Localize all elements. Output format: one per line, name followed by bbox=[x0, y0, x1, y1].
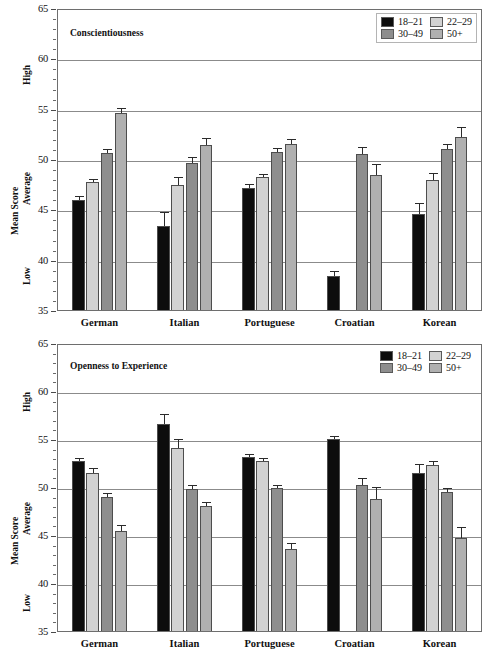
error-bar-whisker bbox=[419, 203, 420, 214]
y-tick-label: 40 bbox=[26, 579, 48, 589]
legend-swatch-22-29-bottom bbox=[429, 351, 442, 361]
y-tick-minor bbox=[53, 251, 56, 252]
bar bbox=[242, 457, 255, 631]
error-bar-whisker bbox=[433, 173, 434, 180]
bar bbox=[115, 531, 128, 631]
bar bbox=[271, 488, 284, 631]
legend-label-50plus-bottom: 50+ bbox=[446, 363, 462, 373]
y-tick-minor bbox=[53, 478, 56, 479]
legend-swatch-30-49-bottom bbox=[380, 363, 393, 373]
legend-top: 18–21 22–29 30–49 50+ bbox=[376, 13, 477, 43]
error-bar-whisker bbox=[164, 212, 165, 226]
panel-openness-to-experience: Mean Score High Average Low 18–21 22–29 … bbox=[0, 330, 490, 654]
error-bar-cap bbox=[245, 454, 254, 455]
y-tick-minor bbox=[53, 241, 56, 242]
y-tick-minor bbox=[53, 79, 56, 80]
x-axis-category-label: Croatian bbox=[312, 317, 397, 328]
legend-item-22-29-top: 22–29 bbox=[430, 17, 472, 27]
bar bbox=[356, 485, 369, 631]
bar bbox=[200, 145, 213, 310]
legend-item-30-49-bottom: 30–49 bbox=[380, 363, 422, 373]
y-tick-major bbox=[51, 344, 56, 345]
error-bar-cap bbox=[358, 478, 367, 479]
bar bbox=[356, 154, 369, 310]
y-tick-minor bbox=[53, 190, 56, 191]
panel-title-bottom: Openness to Experience bbox=[70, 361, 167, 371]
error-bar-whisker bbox=[362, 478, 363, 485]
legend-bottom: 18–21 22–29 30–49 50+ bbox=[376, 348, 475, 376]
y-tick-minor bbox=[53, 517, 56, 518]
y-tick-minor bbox=[53, 459, 56, 460]
y-tick-minor bbox=[53, 180, 56, 181]
x-axis-category-label: Korean bbox=[397, 317, 482, 328]
y-tick-label: 60 bbox=[26, 387, 48, 397]
y-tick-major bbox=[51, 210, 56, 211]
y-tick-minor bbox=[53, 402, 56, 403]
error-bar-whisker bbox=[461, 527, 462, 538]
legend-label-30-49-bottom: 30–49 bbox=[397, 363, 422, 373]
y-tick-minor bbox=[53, 450, 56, 451]
error-bar-cap bbox=[202, 502, 211, 503]
y-tick-label: 40 bbox=[26, 256, 48, 266]
y-tick-label: 65 bbox=[26, 4, 48, 14]
bar bbox=[441, 492, 454, 631]
legend-swatch-22-29-top bbox=[430, 17, 443, 27]
error-bar-cap bbox=[188, 485, 197, 486]
y-tick-minor bbox=[53, 546, 56, 547]
bar bbox=[242, 188, 255, 310]
y-tick-minor bbox=[53, 574, 56, 575]
y-tick-minor bbox=[53, 200, 56, 201]
error-bar-cap bbox=[273, 485, 282, 486]
error-bar-cap bbox=[287, 543, 296, 544]
error-bar-cap bbox=[429, 461, 438, 462]
plot-area-bottom: 18–21 22–29 30–49 50+ Openness to Experi… bbox=[57, 344, 482, 632]
y-tick-minor bbox=[53, 411, 56, 412]
y-tick-label: 60 bbox=[26, 54, 48, 64]
y-tick-minor bbox=[53, 603, 56, 604]
figure-two-panel-bar-charts: Mean Score High Average Low 18–21 22–29 … bbox=[0, 0, 490, 654]
y-axis-anchor-average-top: Average bbox=[22, 172, 32, 205]
error-bar-cap bbox=[174, 439, 183, 440]
y-tick-major bbox=[51, 311, 56, 312]
bar bbox=[426, 180, 439, 310]
error-bar-cap bbox=[259, 458, 268, 459]
y-tick-minor bbox=[53, 421, 56, 422]
error-bar-whisker bbox=[461, 127, 462, 137]
x-axis-category-label: Croatian bbox=[312, 638, 397, 649]
bar bbox=[327, 276, 340, 310]
bar bbox=[115, 113, 128, 310]
error-bar-cap bbox=[457, 127, 466, 128]
y-tick-minor bbox=[53, 170, 56, 171]
y-tick-minor bbox=[53, 565, 56, 566]
bar bbox=[86, 473, 99, 631]
error-bar-cap bbox=[330, 436, 339, 437]
y-tick-major bbox=[51, 440, 56, 441]
y-tick-minor bbox=[53, 150, 56, 151]
legend-swatch-30-49-top bbox=[381, 29, 394, 39]
bar bbox=[171, 448, 184, 631]
bar bbox=[327, 439, 340, 631]
y-tick-minor bbox=[53, 120, 56, 121]
error-bar-cap bbox=[188, 157, 197, 158]
x-axis-category-label: Portuguese bbox=[227, 317, 312, 328]
bar bbox=[455, 137, 468, 310]
y-tick-label: 50 bbox=[26, 483, 48, 493]
error-bar-cap bbox=[75, 196, 84, 197]
y-axis-title-top: Mean Score bbox=[10, 187, 20, 235]
y-tick-label: 65 bbox=[26, 339, 48, 349]
bar bbox=[412, 473, 425, 631]
error-bar-cap bbox=[117, 108, 126, 109]
y-tick-minor bbox=[53, 430, 56, 431]
error-bar-cap bbox=[202, 138, 211, 139]
error-bar-cap bbox=[103, 149, 112, 150]
bar bbox=[157, 226, 170, 310]
y-tick-major bbox=[51, 632, 56, 633]
x-axis-category-label: German bbox=[57, 638, 142, 649]
legend-label-18-21-bottom: 18–21 bbox=[397, 351, 422, 361]
error-bar-cap bbox=[443, 488, 452, 489]
y-tick-major bbox=[51, 59, 56, 60]
error-bar-cap bbox=[415, 464, 424, 465]
bar bbox=[86, 182, 99, 310]
y-tick-minor bbox=[53, 507, 56, 508]
bars-group-top bbox=[58, 10, 481, 310]
